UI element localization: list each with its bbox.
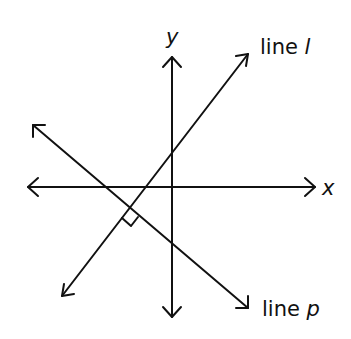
right-angle-marker-icon — [122, 217, 138, 226]
line-p-label-var: p — [306, 297, 320, 321]
coordinate-diagram: y x line l line p — [0, 0, 351, 339]
line-l — [62, 54, 248, 296]
line-p-label-prefix: line — [262, 297, 307, 321]
line-p — [33, 125, 248, 308]
x-axis-label: x — [321, 176, 335, 200]
line-l-label-var: l — [305, 35, 311, 59]
line-p-label: line p — [262, 297, 320, 321]
y-axis-label: y — [165, 25, 179, 49]
line-l-label: line l — [260, 35, 311, 59]
line-l-label-prefix: line — [260, 35, 305, 59]
